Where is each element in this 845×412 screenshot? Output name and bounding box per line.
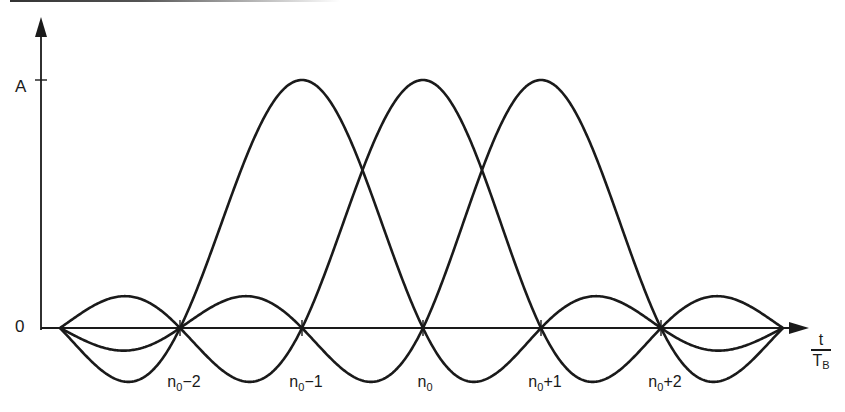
pulse-curves <box>60 80 783 382</box>
x-tick-label: n0−2 <box>167 374 200 393</box>
x-axis-label: t TB <box>811 332 831 371</box>
y-label-zero: 0 <box>15 318 24 335</box>
x-label-denominator-sub: B <box>822 359 829 371</box>
x-label-denominator-main: T <box>812 352 822 369</box>
x-tick-label: n0−1 <box>289 374 322 393</box>
x-tick-label: n0+2 <box>648 374 681 393</box>
x-tick-label: n0 <box>417 374 432 393</box>
sinc-pulse-diagram <box>0 0 845 412</box>
y-label-A: A <box>15 78 26 95</box>
x-label-denominator: TB <box>812 351 829 371</box>
y-axis-arrow-icon <box>35 17 47 37</box>
x-tick-label: n0+1 <box>528 374 561 393</box>
x-label-numerator: t <box>817 332 825 349</box>
x-axis-arrow-icon <box>789 322 809 334</box>
